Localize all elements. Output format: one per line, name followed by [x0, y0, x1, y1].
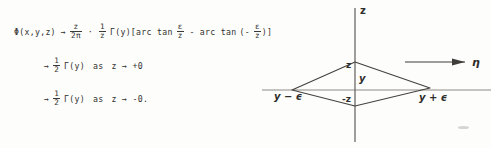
- equation-line-2: →12Γ(y)asz → +0: [44, 57, 143, 74]
- axis-label-z: z: [360, 6, 366, 16]
- vertex-label-left: y − ϵ: [274, 92, 302, 102]
- rhombus-diagram: z η z y -z y − ϵ y + ϵ: [262, 0, 491, 148]
- eq1-arctan-second: arc tan: [200, 28, 237, 36]
- eq1-minus-operator: -: [190, 28, 195, 36]
- eq1-lhs: Φ(x,y,z): [14, 28, 56, 36]
- eq1-fraction-eps-over-z-first: εz: [177, 23, 184, 40]
- interior-label-neg-z: -z: [342, 95, 351, 104]
- eq3-limit-expression: z → -0.: [112, 95, 149, 103]
- eq1-fraction-1-over-z: 1z: [99, 23, 106, 40]
- eq2-gamma-function: Γ(y): [64, 62, 85, 70]
- eq1-frac2-numerator: 1: [99, 23, 106, 31]
- equation-line-3: →12Γ(y)asz → -0.: [44, 90, 148, 107]
- eq1-arrow: →: [61, 28, 66, 36]
- eq1-frac3-denominator: z: [177, 32, 184, 40]
- eq2-as-keyword: as: [93, 62, 103, 70]
- eq1-frac4-denominator: z: [254, 32, 261, 40]
- eq1-fraction-eps-over-z-second: εz: [254, 23, 261, 40]
- eq1-frac1-numerator: z: [70, 23, 82, 31]
- eq2-limit-expression: z → +0: [112, 62, 143, 70]
- eq1-frac1-denominator: 2π: [70, 32, 82, 40]
- eq2-frac-numerator: 1: [53, 57, 60, 65]
- eq1-arctan-first: arc tan: [136, 28, 173, 36]
- diagram-svg: [262, 0, 491, 148]
- rhombus-shape: [292, 62, 430, 106]
- eq1-frac2-denominator: z: [99, 32, 106, 40]
- eq1-frac3-numerator: ε: [177, 23, 184, 31]
- equation-line-1: Φ(x,y,z)→z2π·1zΓ(y)[arc tanεz-arc tan(-ε…: [14, 23, 272, 40]
- vertex-label-right: y + ϵ: [419, 93, 447, 103]
- eq1-dot-operator: ·: [88, 28, 93, 36]
- paper-smudge: [458, 126, 469, 129]
- eq1-frac4-numerator: ε: [254, 23, 261, 31]
- eta-arrow-head: [452, 59, 465, 66]
- interior-label-y: y: [359, 74, 366, 84]
- eq1-paren-open-minus: (-: [239, 28, 249, 36]
- eq3-frac-denominator: 2: [53, 99, 60, 107]
- eq2-fraction-one-half: 12: [53, 57, 60, 74]
- eq1-fraction-z-over-2pi: z2π: [70, 23, 82, 40]
- page-canvas: Φ(x,y,z)→z2π·1zΓ(y)[arc tanεz-arc tan(-ε…: [0, 0, 491, 148]
- eq3-fraction-one-half: 12: [53, 90, 60, 107]
- eq2-arrow: →: [44, 62, 49, 70]
- eq2-frac-denominator: 2: [53, 66, 60, 74]
- eq3-gamma-function: Γ(y): [64, 95, 85, 103]
- eq1-gamma-function: Γ(y): [110, 28, 131, 36]
- interior-label-z: z: [346, 61, 351, 70]
- axis-label-eta: η: [472, 57, 480, 68]
- eq3-arrow: →: [44, 95, 49, 103]
- eq3-frac-numerator: 1: [53, 90, 60, 98]
- eq3-as-keyword: as: [93, 95, 103, 103]
